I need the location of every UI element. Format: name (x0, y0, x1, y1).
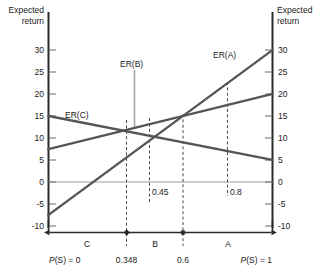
probability-label-left: P(S) = 0 (49, 255, 81, 265)
region-label-b: B (152, 239, 158, 249)
y-axis-left-title-line1: Expected (9, 5, 45, 15)
probability-label-left-rest: (S) = 0 (55, 255, 81, 265)
series-label-er-b: ER(B) (120, 59, 143, 69)
y-tick-label-left-25: 25 (35, 67, 45, 77)
y-tick-label-left-5: 5 (39, 155, 44, 165)
y-tick-label-right-15: 15 (278, 111, 288, 121)
y-tick-label-right-0: 0 (278, 177, 283, 187)
y-tick-label-left-minus5: -5 (36, 199, 44, 209)
right-tick-labels: 30 25 20 15 10 5 0 -5 -10 (278, 45, 291, 231)
chart-canvas: Expected return Expected return 30 25 20… (0, 0, 321, 268)
series-label-er-c: ER(C) (65, 110, 89, 120)
y-tick-label-left-30: 30 (35, 45, 45, 55)
y-tick-label-right-20: 20 (278, 89, 288, 99)
probability-label-right-rest: (S) = 1 (246, 255, 272, 265)
y-tick-label-left-15: 15 (35, 111, 45, 121)
y-tick-label-right-25: 25 (278, 67, 288, 77)
series-label-er-a: ER(A) (213, 50, 236, 60)
y-tick-label-left-0: 0 (39, 177, 44, 187)
boundary-label-0348: 0.348 (116, 255, 138, 265)
y-tick-label-right-minus10: -10 (278, 221, 291, 231)
y-tick-label-right-30: 30 (278, 45, 288, 55)
expected-return-chart: Expected return Expected return 30 25 20… (0, 0, 321, 268)
y-tick-label-right-5: 5 (278, 155, 283, 165)
region-label-c: C (84, 239, 90, 249)
boundary-label-06: 0.6 (177, 255, 189, 265)
x-annotation-label-045: 0.45 (152, 187, 169, 197)
y-axis-right-title-line1: Expected (277, 5, 313, 15)
left-axis-ticks (49, 50, 56, 226)
y-tick-label-left-10: 10 (35, 133, 45, 143)
region-label-a: A (225, 239, 231, 249)
y-axis-right-title-line2: return (277, 16, 299, 26)
dashed-verticals (127, 82, 228, 246)
right-axis-ticks (265, 50, 272, 226)
y-tick-label-right-10: 10 (278, 133, 288, 143)
y-axis-left-title-line2: return (22, 16, 44, 26)
left-tick-labels: 30 25 20 15 10 5 0 -5 -10 (32, 45, 45, 231)
probability-label-right: P(S) = 1 (241, 255, 273, 265)
y-tick-label-left-20: 20 (35, 89, 45, 99)
y-tick-label-right-minus5: -5 (278, 199, 286, 209)
x-annotation-label-08: 0.8 (230, 187, 242, 197)
region-axis-group (49, 220, 273, 233)
y-tick-label-left-minus10: -10 (32, 221, 45, 231)
